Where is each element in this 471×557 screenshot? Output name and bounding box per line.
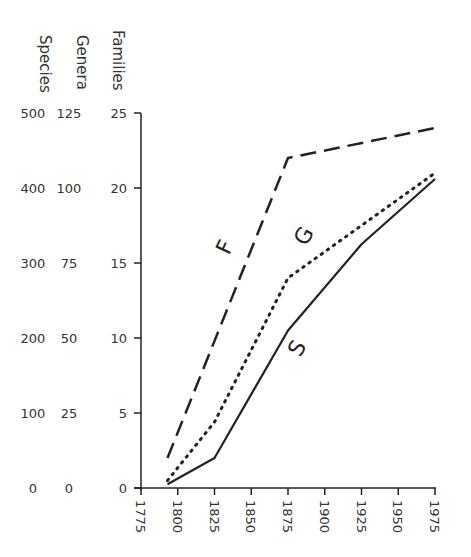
x-tick-label: 1950 [390,500,405,533]
y-tick-label: 15 [110,256,127,271]
x-tick-label: 1925 [354,500,369,533]
y-tick-label: 5 [119,406,127,421]
x-tick-label: 1850 [243,500,258,533]
genera-axis-title: Genera [73,35,91,90]
y-tick-label: 100 [21,406,46,421]
x-tick-label: 1800 [170,500,185,533]
y-axis-ticks: 010020030040050002550751001250510152025 [21,106,141,496]
series-label-f: F [211,236,239,258]
series-label-s: S [283,336,312,361]
species-axis-title: Species [36,35,54,93]
x-tick-label: 1775 [133,500,148,533]
x-tick-label: 1975 [427,500,442,533]
y-tick-label: 0 [119,481,127,496]
line-chart: Species Genera Families 0100200300400500… [0,0,471,557]
y-tick-label: 0 [29,481,37,496]
series-label-g: G [289,222,319,249]
y-tick-label: 10 [110,331,127,346]
y-tick-label: 25 [110,106,127,121]
x-axis-ticks: 177518001825185018751900192519501975 [133,488,442,533]
y-tick-label: 75 [61,256,78,271]
series-lines [168,128,436,484]
y-tick-label: 300 [21,256,46,271]
y-tick-label: 20 [110,181,127,196]
y-tick-label: 50 [61,331,78,346]
axis-titles: Species Genera Families [36,30,127,93]
series-line-g [168,173,436,481]
x-tick-label: 1875 [280,500,295,533]
x-tick-label: 1825 [207,500,222,533]
y-tick-label: 100 [57,181,82,196]
y-tick-label: 200 [21,331,46,346]
y-tick-label: 25 [61,406,78,421]
series-line-f [168,128,436,458]
y-tick-label: 500 [21,106,46,121]
y-tick-label: 125 [57,106,82,121]
families-axis-title: Families [109,30,127,91]
y-tick-label: 0 [65,481,73,496]
y-tick-label: 400 [21,181,46,196]
x-tick-label: 1900 [317,500,332,533]
series-labels: F G S [211,222,319,360]
